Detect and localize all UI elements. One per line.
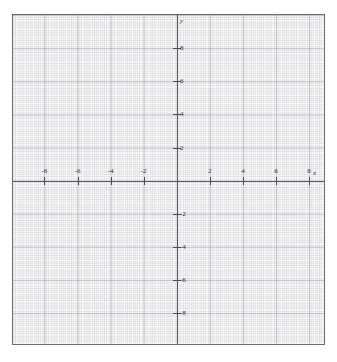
x-tick-label: -2 bbox=[141, 167, 147, 175]
x-tick-label: 4 bbox=[241, 167, 245, 175]
coordinate-graph-figure: -8-6-4-22468 8642-2-4-6-8 y x bbox=[0, 0, 337, 362]
x-tick-label: -8 bbox=[41, 167, 47, 175]
x-tick-mark bbox=[210, 177, 211, 185]
x-tick-mark bbox=[44, 177, 45, 185]
x-axis-line bbox=[13, 181, 325, 182]
x-tick-label: 8 bbox=[307, 167, 311, 175]
y-tick-label: 6 bbox=[180, 77, 184, 85]
x-tick-mark bbox=[276, 177, 277, 185]
y-tick-label: -2 bbox=[180, 210, 186, 218]
x-tick-label: -6 bbox=[75, 167, 81, 175]
x-tick-mark bbox=[309, 177, 310, 185]
x-tick-mark bbox=[243, 177, 244, 185]
x-tick-mark bbox=[111, 177, 112, 185]
x-tick-label: 2 bbox=[208, 167, 212, 175]
plot-area[interactable]: -8-6-4-22468 8642-2-4-6-8 y x bbox=[12, 14, 325, 345]
x-tick-mark bbox=[144, 177, 145, 185]
y-tick-label: 2 bbox=[180, 144, 184, 152]
y-tick-label: -4 bbox=[180, 243, 186, 251]
x-axis-label: x bbox=[313, 169, 316, 177]
y-axis-line bbox=[177, 15, 178, 345]
y-tick-label: -8 bbox=[180, 309, 186, 317]
y-axis-label: y bbox=[180, 17, 183, 25]
y-tick-label: 4 bbox=[180, 110, 184, 118]
x-tick-mark bbox=[78, 177, 79, 185]
x-tick-label: -4 bbox=[108, 167, 114, 175]
x-tick-label: 6 bbox=[274, 167, 278, 175]
major-gridlines bbox=[13, 15, 324, 344]
y-tick-label: 8 bbox=[180, 44, 184, 52]
y-tick-label: -6 bbox=[180, 276, 186, 284]
